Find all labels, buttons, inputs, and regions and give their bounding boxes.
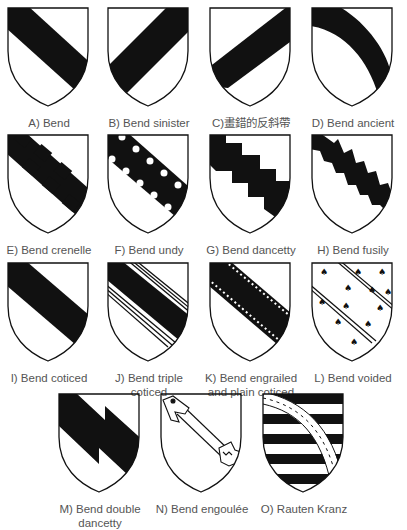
svg-text:♠: ♠ <box>320 267 328 277</box>
svg-text:♠: ♠ <box>350 337 358 347</box>
label-o: O) Rauten Kranz <box>254 502 354 516</box>
label-a: A) Bend <box>0 116 99 130</box>
shield-o-rauten-kranz: O) Rauten Kranz <box>254 392 354 516</box>
shield-e-bend-crenelle: E) Bend crenelle <box>0 133 99 257</box>
shield-f-bend-undy: F) Bend undy <box>99 133 199 257</box>
bend-double-dancetty-shield-icon <box>57 392 143 496</box>
shield-n-bend-engoulee: N) Bend engoulée <box>152 392 252 516</box>
svg-text:♠: ♠ <box>364 319 372 329</box>
bend-engoulee-shield-icon <box>159 392 245 496</box>
bend-triple-coticed-shield-icon <box>106 261 192 365</box>
svg-text:♠: ♠ <box>368 285 376 295</box>
rauten-kranz-shield-icon <box>261 392 347 496</box>
label-d: D) Bend ancient <box>303 116 403 130</box>
svg-text:♠: ♠ <box>344 283 352 293</box>
bend-crenelle-shield-icon <box>6 133 92 237</box>
svg-text:♠: ♠ <box>384 287 392 297</box>
label-e: E) Bend crenelle <box>0 243 99 257</box>
reversed-bend-shield-icon <box>208 6 294 110</box>
shield-h-bend-fusily: H) Bend fusily <box>303 133 403 257</box>
shield-m-bend-double-dancetty: M) Bend doubledancetty <box>50 392 150 530</box>
bend-fusily-shield-icon <box>310 133 396 237</box>
shield-i-bend-coticed: I) Bend coticed <box>0 261 99 385</box>
bend-engrailed-shield-icon <box>208 261 294 365</box>
svg-text:♠: ♠ <box>354 267 362 277</box>
shield-k-bend-engrailed: K) Bend engrailedand plain coticed <box>201 261 301 399</box>
bend-undy-shield-icon <box>106 133 192 237</box>
bend-dancetty-shield-icon <box>208 133 294 237</box>
shield-d-bend-ancient: D) Bend ancient <box>303 6 403 130</box>
shield-a-bend: A) Bend <box>0 6 99 130</box>
bend-voided-shield-icon: ♠♠♠ ♠♠♠ ♠♠♠ ♠♠♠ <box>310 261 396 365</box>
svg-text:♠: ♠ <box>378 267 386 277</box>
shield-c: C)畫錯的反斜帶 <box>201 6 301 130</box>
label-g: G) Bend dancetty <box>201 243 301 257</box>
bend-sinister-shield-icon <box>106 6 192 110</box>
label-m: M) Bend doubledancetty <box>50 502 150 530</box>
bend-shield-icon <box>6 6 92 110</box>
shield-b-bend-sinister: B) Bend sinister <box>99 6 199 130</box>
shield-j-bend-triple-coticed: J) Bend triplecoticed <box>99 261 199 399</box>
svg-text:♠: ♠ <box>318 297 326 307</box>
bend-ancient-shield-icon <box>310 6 396 110</box>
label-i: I) Bend coticed <box>0 371 99 385</box>
label-b: B) Bend sinister <box>99 116 199 130</box>
label-l: L) Bend voided <box>303 371 403 385</box>
svg-text:♠: ♠ <box>334 317 342 327</box>
svg-text:♠: ♠ <box>342 301 350 311</box>
shield-l-bend-voided: ♠♠♠ ♠♠♠ ♠♠♠ ♠♠♠ L) Bend voided <box>303 261 403 385</box>
label-n: N) Bend engoulée <box>152 502 252 516</box>
bend-coticed-shield-icon <box>6 261 92 365</box>
label-f: F) Bend undy <box>99 243 199 257</box>
label-c: C)畫錯的反斜帶 <box>201 116 301 130</box>
shield-g-bend-dancetty: G) Bend dancetty <box>201 133 301 257</box>
label-h: H) Bend fusily <box>303 243 403 257</box>
svg-text:♠: ♠ <box>376 303 384 313</box>
